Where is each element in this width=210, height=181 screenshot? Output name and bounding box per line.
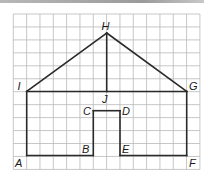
vertex-label-E: E <box>122 143 130 155</box>
vertex-label-C: C <box>83 105 91 117</box>
vertex-label-I: I <box>18 80 21 92</box>
vertex-label-G: G <box>189 80 198 92</box>
vertex-label-D: D <box>122 105 130 117</box>
vertex-label-B: B <box>82 143 89 155</box>
house-figure: HIGJCDBEAF <box>0 0 210 181</box>
vertex-label-A: A <box>14 157 22 169</box>
vertex-label-F: F <box>189 157 197 169</box>
vertex-label-H: H <box>102 20 110 32</box>
vertex-label-J: J <box>101 93 108 105</box>
